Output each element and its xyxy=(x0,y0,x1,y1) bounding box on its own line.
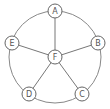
wheel-graph-diagram: A B C D E F xyxy=(0,0,110,109)
node-e-label: E xyxy=(9,39,14,48)
node-c: C xyxy=(75,87,89,101)
node-b-label: B xyxy=(95,39,101,48)
node-d-label: D xyxy=(26,90,32,99)
node-d: D xyxy=(22,87,36,101)
node-f-label: F xyxy=(53,53,58,62)
node-b: B xyxy=(91,36,105,50)
node-e: E xyxy=(5,36,19,50)
node-c-label: C xyxy=(79,90,85,99)
node-f-center: F xyxy=(48,50,62,64)
node-a: A xyxy=(48,4,62,18)
node-a-label: A xyxy=(52,7,58,16)
